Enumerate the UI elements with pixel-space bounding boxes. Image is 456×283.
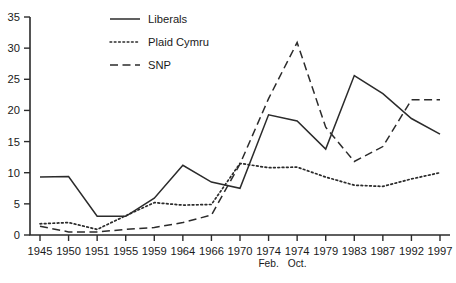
axis-frame xyxy=(30,17,450,235)
x-axis-tick-label: 1959 xyxy=(142,245,167,257)
y-axis-tick-label: 30 xyxy=(8,42,20,54)
y-axis-tick-label: 25 xyxy=(8,73,20,85)
x-axis-tick-label: 1950 xyxy=(56,245,81,257)
x-axis-tick-label: 1945 xyxy=(28,245,53,257)
y-axis-tick-label: 20 xyxy=(8,104,20,116)
y-axis-tick-label: 0 xyxy=(14,229,20,241)
x-axis-tick-label: 1974 xyxy=(256,245,281,257)
x-axis-tick-label: 1964 xyxy=(170,245,195,257)
series-line-plaid-cymru xyxy=(40,163,440,229)
x-axis-tick-label: 1974 xyxy=(285,245,310,257)
chart-axes xyxy=(30,17,450,235)
series-line-snp xyxy=(40,43,440,232)
series-line-liberals xyxy=(40,76,440,217)
x-axis-tick-label: 1983 xyxy=(342,245,367,257)
y-axis-tick-label: 15 xyxy=(8,136,20,148)
x-axis-tick-label: 1970 xyxy=(228,245,253,257)
x-axis-tick-label: 1979 xyxy=(313,245,338,257)
x-axis-tick-label: 1951 xyxy=(85,245,110,257)
y-axis-tick-label: 10 xyxy=(8,167,20,179)
x-axis-tick-label: 1966 xyxy=(199,245,224,257)
y-axis-tick-label: 5 xyxy=(14,198,20,210)
legend-label-snp: SNP xyxy=(148,59,171,71)
x-axis-tick-label: 1992 xyxy=(399,245,424,257)
x-axis-tick-sublabel: Oct. xyxy=(288,258,307,269)
chart-container: LiberalsPlaid CymruSNP 05101520253035 19… xyxy=(0,0,456,283)
x-axis-tick-label: 1997 xyxy=(428,245,453,257)
chart-series-lines xyxy=(40,43,440,232)
legend-label-plaid-cymru: Plaid Cymru xyxy=(148,36,209,48)
x-axis-tick-label: 1987 xyxy=(370,245,395,257)
x-axis-tick-sublabel: Feb. xyxy=(258,258,278,269)
y-axis-tick-label: 35 xyxy=(8,11,20,23)
x-axis-tick-label: 1955 xyxy=(113,245,138,257)
y-axis-ticks: 05101520253035 xyxy=(8,11,30,241)
x-axis-ticks: 194519501951195519591964196619701974Feb.… xyxy=(28,235,453,269)
line-chart-plot: LiberalsPlaid CymruSNP 05101520253035 19… xyxy=(0,0,456,283)
chart-legend: LiberalsPlaid CymruSNP xyxy=(110,13,209,71)
legend-label-liberals: Liberals xyxy=(148,13,188,25)
